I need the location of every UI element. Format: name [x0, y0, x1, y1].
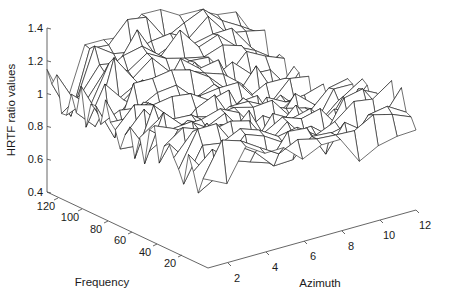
z-tick-label: 0.4: [28, 186, 43, 198]
surface-mesh: [47, 9, 416, 193]
azimuth-axis: 24681012 Azimuth: [208, 210, 431, 289]
frequency-axis-label: Frequency: [75, 276, 130, 288]
azimuth-tick-label: 6: [310, 250, 316, 262]
azimuth-axis-label: Azimuth: [299, 277, 341, 289]
hrtf-surface-chart: 0.40.60.811.21.4 HRTF ratio values 12010…: [0, 0, 451, 302]
azimuth-tick-label: 10: [383, 229, 395, 241]
z-tick-label: 0.8: [28, 120, 43, 132]
azimuth-tick-label: 2: [234, 272, 240, 284]
frequency-tick-label: 80: [90, 223, 102, 235]
frequency-tick-label: 40: [139, 246, 151, 258]
frequency-tick-label: 60: [114, 234, 126, 246]
azimuth-tick-label: 12: [419, 219, 431, 231]
frequency-tick-label: 100: [61, 211, 79, 223]
z-axis: 0.40.60.811.21.4 HRTF ratio values: [5, 22, 51, 198]
z-tick-label: 1.4: [28, 22, 43, 34]
azimuth-tick-label: 8: [348, 240, 354, 252]
azimuth-tick-label: 4: [272, 261, 278, 273]
frequency-tick-label: 20: [164, 257, 176, 269]
frequency-axis: 12010080604020 Frequency: [37, 192, 208, 288]
z-tick-label: 1: [37, 88, 43, 100]
z-tick-label: 0.6: [28, 153, 43, 165]
z-tick-label: 1.2: [28, 55, 43, 67]
z-axis-label: HRTF ratio values: [5, 64, 17, 157]
frequency-tick-label: 120: [37, 200, 55, 212]
